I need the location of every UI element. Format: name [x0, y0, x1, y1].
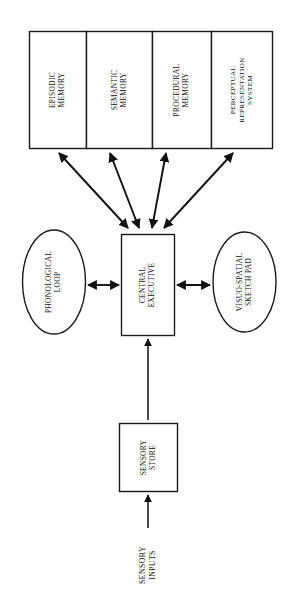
ltm-box-semantic-memory[interactable]: SEMANTIC MEMORY	[87, 32, 153, 149]
ltm-box-procedural-memory-line1: PROCEDURAL	[172, 63, 181, 116]
long-term-memory-group: EPISODIC MEMORY SEMANTIC MEMORY PROCEDUR…	[30, 32, 273, 149]
ltm-box-episodic-memory-line1: EPISODIC	[48, 72, 57, 108]
sensory-inputs-label: SENSORY INPUTS	[138, 546, 157, 584]
sensory-store-node[interactable]: SENSORY STORE	[120, 424, 178, 492]
visuo-spatial-sketch-pad-line1: VISUO-SPATIAL	[235, 253, 244, 312]
ltm-box-perceptual-representation-system-line1: PERCEPTUAL	[229, 66, 237, 114]
ltm-box-procedural-memory[interactable]: PROCEDURAL MEMORY	[153, 32, 212, 149]
ltm-box-semantic-memory-line2: MEMORY	[119, 72, 128, 107]
phonological-loop-line1: PHONOLOGICAL	[44, 251, 53, 313]
connector-ltm-procedural-to-ce	[152, 153, 166, 228]
ltm-box-perceptual-representation-system[interactable]: PERCEPTUAL REPRESENTATION SYSTEM	[212, 32, 273, 149]
sensory-store-line1: SENSORY	[139, 439, 148, 475]
ltm-box-perceptual-representation-system-line2: REPRESENTATION	[238, 57, 246, 122]
ltm-box-episodic-memory-line2: MEMORY	[57, 72, 66, 107]
sensory-inputs-line1: SENSORY	[138, 546, 147, 584]
connector-ltm-semantic-to-ce	[110, 153, 139, 228]
phonological-loop-line2: LOOP	[53, 272, 62, 293]
central-executive-node[interactable]: CENTRAL EXECUTIVE	[122, 235, 175, 336]
sensory-inputs-line2: INPUTS	[148, 550, 157, 580]
connector-ltm-episodic-to-ce	[59, 153, 128, 228]
visuo-spatial-sketch-pad-node[interactable]: VISUO-SPATIAL SKETCH PAD	[213, 232, 276, 332]
ltm-to-central-executive-arrows	[59, 153, 233, 228]
ltm-box-perceptual-representation-system-line3: SYSTEM	[246, 75, 254, 105]
connector-ltm-prs-to-ce	[164, 153, 233, 228]
diagram-canvas: EPISODIC MEMORY SEMANTIC MEMORY PROCEDUR…	[0, 0, 299, 599]
central-executive-line2: EXECUTIVE	[147, 263, 156, 308]
sensory-store-line2: STORE	[148, 445, 157, 470]
ltm-box-semantic-memory-line1: SEMANTIC	[110, 70, 119, 111]
visuo-spatial-sketch-pad-line2: SKETCH PAD	[244, 258, 253, 307]
memory-model-diagram: EPISODIC MEMORY SEMANTIC MEMORY PROCEDUR…	[0, 0, 299, 599]
ltm-box-procedural-memory-line2: MEMORY	[181, 72, 190, 107]
central-executive-line1: CENTRAL	[138, 267, 147, 304]
ltm-box-episodic-memory[interactable]: EPISODIC MEMORY	[30, 32, 87, 149]
phonological-loop-node[interactable]: PHONOLOGICAL LOOP	[23, 230, 86, 334]
